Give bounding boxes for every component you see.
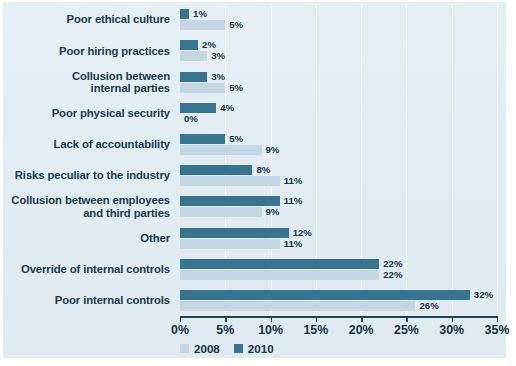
category-label: Other [0, 232, 170, 244]
category-label-line: Poor ethical culture [0, 13, 170, 25]
chart-legend: 20082010 [180, 342, 274, 355]
category-label: Poor physical security [0, 107, 170, 119]
x-axis-tick-label: 0% [171, 323, 189, 337]
category-label: Lack of accountability [0, 138, 170, 150]
bar-value-2008: 0% [184, 114, 198, 124]
bar-2008 [180, 270, 379, 280]
bar-2008 [180, 20, 225, 30]
category-label: Poor ethical culture [0, 13, 170, 25]
x-axis-tick [361, 316, 362, 322]
bar-value-2008: 3% [211, 51, 225, 61]
category-label: Override of internal controls [0, 263, 170, 275]
category-label: Collusion between employeesand third par… [0, 194, 170, 219]
bar-2010 [180, 72, 207, 82]
bar-2010 [180, 134, 225, 144]
bar-2010 [180, 290, 470, 300]
x-axis-tick-label: 5% [216, 323, 234, 337]
category-label: Poor hiring practices [0, 45, 170, 57]
x-axis-tick-label: 25% [394, 323, 419, 337]
bar-2010 [180, 9, 189, 19]
x-axis-tick [452, 316, 453, 322]
bar-value-2008: 11% [284, 239, 303, 249]
bar-2008 [180, 301, 415, 311]
x-axis-line [180, 316, 498, 318]
bar-2010 [180, 40, 198, 50]
bar-value-2010: 5% [229, 134, 243, 144]
x-axis-tick [316, 316, 317, 322]
gridline [497, 4, 498, 316]
bar-value-2010: 8% [256, 165, 270, 175]
category-axis-labels: Poor ethical culturePoor hiring practice… [0, 4, 176, 316]
bar-value-2008: 9% [266, 145, 280, 155]
bar-value-2010: 1% [193, 9, 207, 19]
bar-value-2010: 3% [211, 72, 225, 82]
bar-value-2008: 5% [229, 20, 243, 30]
x-axis-tick-label: 35% [485, 323, 510, 337]
x-axis-tick-label: 15% [303, 323, 328, 337]
legend-label: 2010 [248, 342, 274, 355]
category-label-line: Poor hiring practices [0, 45, 170, 57]
bar-value-2008: 5% [229, 83, 243, 93]
bar-value-2010: 32% [474, 290, 493, 300]
bar-2010 [180, 165, 252, 175]
category-label-line: Other [0, 232, 170, 244]
gridline [452, 4, 453, 316]
category-label: Risks peculiar to the industry [0, 169, 170, 181]
x-axis-tick [225, 316, 226, 322]
bar-2008 [180, 83, 225, 93]
x-axis-tick [406, 316, 407, 322]
bar-value-2010: 4% [220, 103, 234, 113]
x-axis-tick-label: 30% [439, 323, 464, 337]
legend-label: 2008 [194, 342, 220, 355]
bar-value-2010: 2% [202, 40, 216, 50]
x-axis-tick [180, 316, 181, 322]
bar-value-2008: 26% [419, 301, 438, 311]
bar-value-2010: 22% [383, 259, 402, 269]
category-label-line: Poor internal controls [0, 294, 170, 306]
chart-figure: Poor ethical culturePoor hiring practice… [0, 0, 516, 366]
bar-value-2008: 22% [383, 270, 402, 280]
bar-2010 [180, 228, 289, 238]
category-label-line: and third parties [0, 207, 170, 219]
plot-area: 1%5%2%3%3%5%4%0%5%9%8%11%11%9%12%11%22%2… [180, 4, 497, 316]
category-label-line: Poor physical security [0, 107, 170, 119]
category-label: Poor internal controls [0, 294, 170, 306]
legend-swatch-icon [180, 344, 189, 353]
category-label: Collusion betweeninternal parties [0, 70, 170, 95]
legend-swatch-icon [234, 344, 243, 353]
category-label-line: Collusion between [0, 70, 170, 82]
bar-2008 [180, 51, 207, 61]
bar-2008 [180, 239, 280, 249]
bar-2008 [180, 207, 262, 217]
bar-2008 [180, 176, 280, 186]
legend-item-2010[interactable]: 2010 [234, 342, 274, 355]
bar-2008 [180, 145, 262, 155]
x-axis-tick-label: 10% [258, 323, 283, 337]
x-axis-tick [497, 316, 498, 322]
bar-value-2008: 9% [266, 207, 280, 217]
x-axis-tick [271, 316, 272, 322]
bar-2010 [180, 259, 379, 269]
bar-value-2008: 11% [284, 176, 303, 186]
category-label-line: Risks peculiar to the industry [0, 169, 170, 181]
category-label-line: internal parties [0, 82, 170, 94]
legend-item-2008[interactable]: 2008 [180, 342, 220, 355]
bar-2010 [180, 196, 280, 206]
category-label-line: Lack of accountability [0, 138, 170, 150]
category-label-line: Override of internal controls [0, 263, 170, 275]
x-axis-tick-label: 20% [349, 323, 374, 337]
gridline [406, 4, 407, 316]
bar-2010 [180, 103, 216, 113]
bar-value-2010: 12% [293, 228, 312, 238]
bar-value-2010: 11% [284, 196, 303, 206]
category-label-line: Collusion between employees [0, 194, 170, 206]
